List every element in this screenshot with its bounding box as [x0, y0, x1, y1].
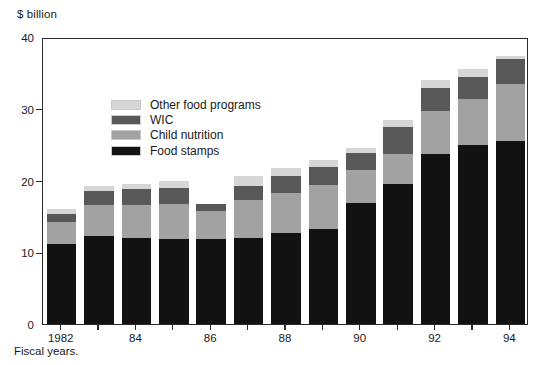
- bar-segment-wic: [47, 214, 77, 223]
- bar-segment-food-stamps: [421, 154, 451, 324]
- legend-label: Child nutrition: [150, 129, 223, 141]
- bar-1991: [383, 120, 413, 324]
- bar-segment-child-nutrition: [122, 205, 152, 238]
- bar-segment-wic: [122, 189, 152, 205]
- bar-segment-child-nutrition: [458, 99, 488, 144]
- bar-1982: [47, 208, 77, 324]
- x-tick-mark: [210, 325, 211, 330]
- bar-segment-wic: [309, 167, 339, 185]
- bar-1989: [309, 160, 339, 324]
- bar-segment-wic: [271, 176, 301, 194]
- bar-segment-other-food-programs: [458, 69, 488, 78]
- legend-item-food-stamps: Food stamps: [111, 143, 261, 158]
- y-tick-label: 20: [21, 176, 34, 188]
- x-tick-mark: [97, 325, 98, 330]
- bar-segment-other-food-programs: [421, 80, 451, 88]
- x-tick-label: 86: [204, 332, 217, 344]
- y-tick-label: 40: [21, 32, 34, 44]
- x-tick-label: 94: [503, 332, 516, 344]
- bar-segment-wic: [159, 188, 189, 205]
- bar-segment-child-nutrition: [234, 200, 264, 238]
- x-axis: 1982848688909294: [0, 325, 541, 365]
- bar-segment-child-nutrition: [346, 170, 376, 204]
- bar-segment-food-stamps: [309, 229, 339, 324]
- bar-segment-food-stamps: [47, 244, 77, 324]
- bar-segment-wic: [458, 77, 488, 99]
- bar-segment-child-nutrition: [496, 84, 526, 141]
- legend-item-other-food-programs: Other food programs: [111, 97, 261, 112]
- bar-segment-food-stamps: [383, 184, 413, 324]
- bar-segment-food-stamps: [458, 145, 488, 324]
- bar-1988: [271, 168, 301, 324]
- bar-segment-food-stamps: [234, 238, 264, 324]
- legend-swatch-icon: [111, 100, 141, 110]
- bar-1992: [421, 80, 451, 324]
- legend-label: Other food programs: [150, 99, 261, 111]
- legend-item-wic: WIC: [111, 112, 261, 127]
- x-tick-mark: [60, 325, 61, 330]
- bar-1990: [346, 148, 376, 325]
- bar-segment-wic: [383, 127, 413, 154]
- bar-1993: [458, 69, 488, 324]
- bar-1983: [84, 186, 114, 324]
- legend-swatch-icon: [111, 115, 141, 125]
- x-tick-mark: [172, 325, 173, 330]
- bar-segment-wic: [84, 191, 114, 205]
- x-axis-caption: Fiscal years.: [14, 345, 79, 357]
- legend-swatch-icon: [111, 130, 141, 140]
- bar-segment-wic: [421, 88, 451, 111]
- legend-label: Food stamps: [150, 145, 219, 157]
- bar-1986: [196, 203, 226, 324]
- bar-segment-child-nutrition: [159, 204, 189, 238]
- bar-segment-child-nutrition: [421, 111, 451, 154]
- bar-segment-food-stamps: [496, 141, 526, 324]
- x-tick-label: 92: [428, 332, 441, 344]
- legend-swatch-icon: [111, 146, 141, 156]
- bar-segment-food-stamps: [159, 239, 189, 324]
- x-tick-label: 84: [129, 332, 142, 344]
- x-tick-mark: [509, 325, 510, 330]
- bar-segment-wic: [346, 153, 376, 170]
- x-tick-mark: [284, 325, 285, 330]
- chart-legend: Other food programsWICChild nutritionFoo…: [111, 97, 261, 159]
- y-tick-label: 10: [21, 247, 34, 259]
- bar-segment-other-food-programs: [234, 176, 264, 185]
- stacked-bar-chart-figure: $ billion 010203040 Other food programsW…: [0, 0, 541, 365]
- bar-1994: [496, 56, 526, 324]
- bar-segment-wic: [234, 186, 264, 200]
- bar-segment-child-nutrition: [196, 211, 226, 240]
- y-tick-label: 30: [21, 104, 34, 116]
- x-tick-label: 88: [279, 332, 292, 344]
- x-tick-mark: [434, 325, 435, 330]
- plot-area: Other food programsWICChild nutritionFoo…: [42, 38, 528, 325]
- x-tick-mark: [135, 325, 136, 330]
- y-axis: 010203040: [0, 0, 42, 365]
- x-tick-label: 1982: [48, 332, 74, 344]
- x-tick-mark: [397, 325, 398, 330]
- x-tick-mark: [247, 325, 248, 330]
- bar-1984: [122, 184, 152, 324]
- legend-label: WIC: [150, 114, 173, 126]
- bar-segment-food-stamps: [346, 203, 376, 324]
- bar-segment-child-nutrition: [47, 222, 77, 244]
- bar-1985: [159, 181, 189, 324]
- bar-segment-child-nutrition: [271, 193, 301, 232]
- bar-segment-other-food-programs: [271, 168, 301, 176]
- x-tick-label: 90: [353, 332, 366, 344]
- bar-segment-child-nutrition: [84, 205, 114, 236]
- bar-segment-food-stamps: [196, 239, 226, 324]
- bar-segment-child-nutrition: [383, 154, 413, 184]
- bar-segment-wic: [496, 59, 526, 84]
- x-tick-mark: [359, 325, 360, 330]
- bar-segment-food-stamps: [84, 236, 114, 324]
- legend-item-child-nutrition: Child nutrition: [111, 128, 261, 143]
- bar-1987: [234, 176, 264, 324]
- bar-segment-food-stamps: [271, 233, 301, 324]
- bar-segment-child-nutrition: [309, 185, 339, 229]
- bar-segment-food-stamps: [122, 238, 152, 324]
- bars-layer: [43, 39, 527, 324]
- x-tick-mark: [322, 325, 323, 330]
- x-tick-mark: [471, 325, 472, 330]
